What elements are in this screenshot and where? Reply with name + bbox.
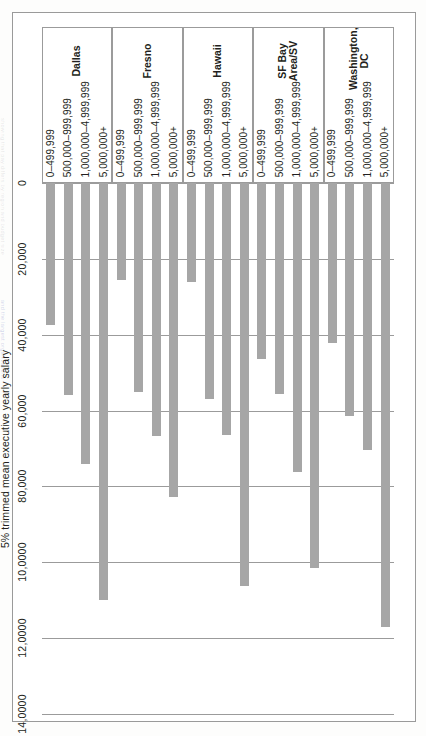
category-group-1: Washington,DC5,000,000+1,000,000–4,999,9… xyxy=(324,27,394,183)
category-sublabel: 500,000–999,999 xyxy=(203,98,214,177)
bar xyxy=(187,183,196,282)
value-axis-title: 5% trimmed mean executive yearly salary xyxy=(0,349,11,547)
category-sublabel: 5,000,000+ xyxy=(379,126,390,177)
bar xyxy=(205,183,214,399)
gridline-0 xyxy=(42,183,394,184)
category-group-2: SF BayArea/SV5,000,000+1,000,000–4,999,9… xyxy=(253,27,323,183)
bar xyxy=(134,183,143,392)
category-sublabel: 1,000,000–4,999,999 xyxy=(150,81,161,177)
bar xyxy=(310,183,319,568)
bar xyxy=(275,183,284,394)
category-sublabel: 0–499,999 xyxy=(256,129,267,177)
bar xyxy=(328,183,337,343)
tick-label-100000: 10,0000 xyxy=(16,543,28,582)
bar xyxy=(46,183,55,325)
category-sublabel: 500,000–999,999 xyxy=(62,98,73,177)
bar xyxy=(170,183,179,497)
gridline-40000 xyxy=(42,335,394,336)
category-sublabel: 0–499,999 xyxy=(115,129,126,177)
gridline-140000 xyxy=(42,714,394,715)
bar xyxy=(381,183,390,627)
bar xyxy=(99,183,108,600)
bar xyxy=(258,183,267,359)
bar xyxy=(363,183,372,450)
category-sublabel: 1,000,000–4,999,999 xyxy=(80,81,91,177)
category-group-3: Hawaii5,000,000+1,000,000–4,999,999500,0… xyxy=(183,27,253,183)
category-sublabel: 5,000,000+ xyxy=(168,126,179,177)
bar xyxy=(82,183,91,464)
category-sublabel: 5,000,000+ xyxy=(238,126,249,177)
bar xyxy=(117,183,126,280)
category-sublabel: 500,000–999,999 xyxy=(344,98,355,177)
tick-label-40000: 40,000 xyxy=(16,318,28,351)
tick-label-80000: 80,000 xyxy=(16,470,28,503)
tick-label-140000: 14,0000 xyxy=(16,694,28,733)
plot-area xyxy=(42,183,394,714)
gridline-60000 xyxy=(42,411,394,412)
tick-label-120000: 12,0000 xyxy=(16,618,28,657)
category-group-5: Dallas5,000,000+1,000,000–4,999,999500,0… xyxy=(42,27,112,183)
bar xyxy=(152,183,161,436)
category-sublabel: 1,000,000–4,999,999 xyxy=(361,81,372,177)
gridline-80000 xyxy=(42,486,394,487)
bar xyxy=(293,183,302,472)
bar xyxy=(64,183,73,395)
chart-rotated-stage: Washington,DC5,000,000+1,000,000–4,999,9… xyxy=(0,0,426,736)
category-sublabel: 500,000–999,999 xyxy=(132,98,143,177)
category-sublabel: 500,000–999,999 xyxy=(273,98,284,177)
bar xyxy=(346,183,355,416)
gridline-100000 xyxy=(42,562,394,563)
category-sublabel: 1,000,000–4,999,999 xyxy=(220,81,231,177)
gridline-120000 xyxy=(42,638,394,639)
category-sublabel: 1,000,000–4,999,999 xyxy=(291,81,302,177)
category-sublabel: 5,000,000+ xyxy=(308,126,319,177)
tick-label-60000: 60,000 xyxy=(16,394,28,427)
gridline-20000 xyxy=(42,259,394,260)
chart-figure: Washington,DC5,000,000+1,000,000–4,999,9… xyxy=(12,12,416,722)
category-group-4: Fresno5,000,000+1,000,000–4,999,999500,0… xyxy=(112,27,182,183)
category-sublabel: 5,000,000+ xyxy=(97,126,108,177)
category-sublabel: 0–499,999 xyxy=(185,129,196,177)
category-sublabel: 0–499,999 xyxy=(326,129,337,177)
tick-label-0: 0 xyxy=(16,180,28,186)
category-sublabel: 0–499,999 xyxy=(44,129,55,177)
tick-label-20000: 20,000 xyxy=(16,242,28,275)
scanned-page: showing that pay differs by region and b… xyxy=(0,0,426,736)
bar xyxy=(240,183,249,586)
bar xyxy=(222,183,231,435)
